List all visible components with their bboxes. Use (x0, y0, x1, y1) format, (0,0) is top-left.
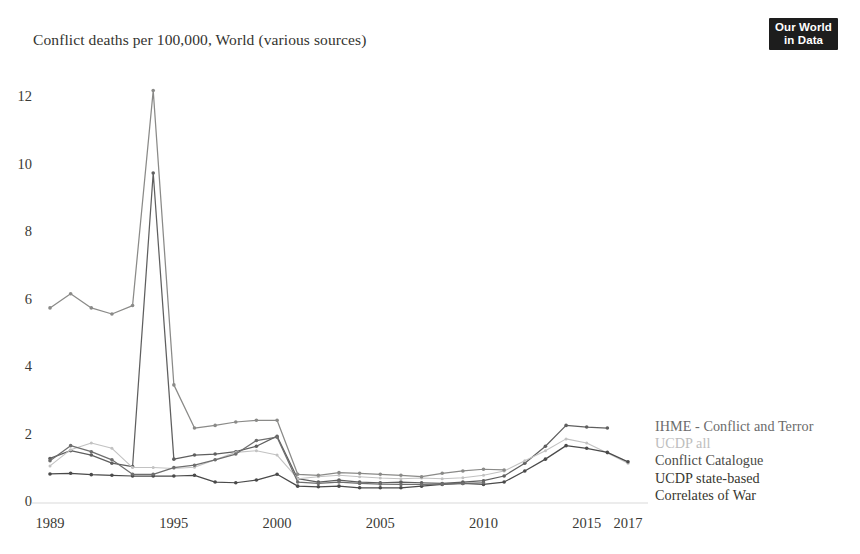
data-point (585, 447, 589, 451)
data-point (110, 458, 114, 462)
y-tick-0: 0 (2, 493, 32, 510)
data-point (89, 453, 93, 457)
data-point (420, 475, 424, 479)
data-point (337, 471, 341, 475)
data-point (131, 304, 135, 308)
series-path (50, 173, 607, 484)
data-point (48, 459, 52, 463)
data-point (317, 474, 321, 478)
data-point (461, 469, 465, 473)
data-point (564, 444, 568, 448)
data-point (337, 480, 341, 484)
data-point (378, 486, 382, 490)
data-point (172, 474, 176, 478)
data-point (234, 481, 238, 485)
chart-legend: IHME - Conflict and TerrorUCDP allConfli… (655, 418, 813, 504)
data-point (110, 474, 114, 478)
data-point (152, 466, 155, 469)
data-point (606, 426, 610, 430)
data-point (110, 312, 114, 316)
data-point (358, 482, 362, 486)
data-point (317, 485, 321, 489)
data-point (89, 473, 93, 477)
data-point (276, 454, 279, 457)
data-point (606, 451, 610, 455)
series-line-2 (48, 89, 506, 479)
data-point (69, 444, 73, 448)
y-tick-6: 6 (2, 291, 32, 308)
data-point (89, 450, 93, 454)
data-point (296, 473, 300, 477)
legend-entry-1[interactable]: UCDP all (655, 435, 813, 452)
data-point (255, 419, 259, 423)
data-point (482, 481, 486, 485)
data-point (358, 486, 362, 490)
data-point (151, 171, 155, 175)
data-point (110, 447, 113, 450)
x-tick-1989: 1989 (25, 515, 75, 532)
legend-entry-0[interactable]: IHME - Conflict and Terror (655, 418, 813, 435)
data-point (48, 306, 52, 310)
x-tick-2010: 2010 (459, 515, 509, 532)
data-point (275, 419, 279, 423)
data-point (213, 458, 217, 462)
data-point (151, 89, 155, 93)
data-point (502, 468, 506, 472)
data-point (482, 474, 485, 477)
data-point (296, 484, 300, 488)
y-tick-10: 10 (2, 156, 32, 173)
data-point (585, 441, 588, 444)
data-point (89, 306, 93, 310)
data-point (337, 484, 341, 488)
data-point (358, 472, 362, 476)
data-point (49, 464, 52, 467)
data-point (69, 472, 73, 476)
data-point (461, 476, 464, 479)
data-point (544, 457, 548, 461)
data-point (523, 459, 526, 462)
legend-entry-4[interactable]: Correlates of War (655, 487, 813, 504)
x-tick-2000: 2000 (252, 515, 302, 532)
series-line-0 (48, 171, 609, 485)
data-point (255, 445, 259, 449)
data-point (110, 461, 114, 465)
legend-entry-2[interactable]: Conflict Catalogue (655, 452, 813, 469)
data-point (193, 474, 197, 478)
legend-entry-3[interactable]: UCDP state-based (655, 470, 813, 487)
data-point (275, 435, 279, 439)
data-point (399, 477, 402, 480)
chart-container: Conflict deaths per 100,000, World (vari… (0, 0, 860, 554)
data-point (358, 475, 361, 478)
data-point (69, 448, 72, 451)
data-point (544, 449, 547, 452)
data-point (378, 473, 382, 477)
data-point (544, 445, 548, 449)
data-point (193, 463, 197, 467)
data-point (172, 383, 176, 387)
data-point (255, 478, 259, 482)
data-point (296, 480, 300, 484)
data-point (379, 477, 382, 480)
data-point (69, 292, 73, 296)
data-point (234, 420, 238, 424)
data-point (378, 482, 382, 486)
data-point (399, 483, 403, 487)
data-point (193, 453, 197, 457)
data-point (234, 452, 238, 456)
data-point (317, 482, 321, 486)
data-point (523, 469, 527, 473)
x-tick-1995: 1995 (149, 515, 199, 532)
data-point (399, 474, 403, 478)
data-point (131, 473, 135, 477)
data-point (131, 466, 134, 469)
y-tick-8: 8 (2, 223, 32, 240)
data-point (90, 441, 93, 444)
data-point (48, 472, 52, 476)
y-tick-4: 4 (2, 358, 32, 375)
data-point (482, 467, 486, 471)
data-point (275, 473, 279, 477)
data-point (461, 482, 465, 486)
data-point (399, 486, 403, 490)
data-point (193, 426, 197, 430)
data-point (440, 472, 444, 476)
